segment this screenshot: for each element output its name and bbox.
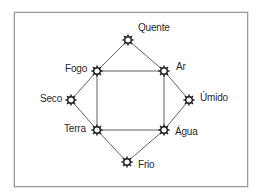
edge-terra-frio [97,130,127,162]
label-umido: Úmido [200,93,228,103]
edges-layer [71,40,189,162]
edge-ar-umido [164,71,189,100]
edge-agua-frio [127,130,164,162]
node-agua-star-gear-icon [158,124,169,135]
node-quente-star-gear-icon [122,34,133,45]
edge-fogo-seco [71,71,97,100]
node-frio-star-gear-icon [121,156,132,167]
label-quente: Quente [138,23,170,33]
node-ar-star-gear-icon [158,65,169,76]
node-terra-star-gear-icon [91,124,102,135]
label-frio: Frio [138,160,154,170]
edge-quente-fogo [97,40,128,71]
label-seco: Seco [40,94,62,104]
nodes-layer [65,34,194,167]
edge-quente-ar [128,40,164,71]
label-terra: Terra [64,124,86,134]
label-ar: Ar [176,62,186,72]
node-umido-star-gear-icon [183,94,194,105]
label-fogo: Fogo [65,64,87,74]
node-seco-star-gear-icon [65,94,76,105]
label-agua: Água [175,127,198,137]
node-fogo-star-gear-icon [91,65,102,76]
